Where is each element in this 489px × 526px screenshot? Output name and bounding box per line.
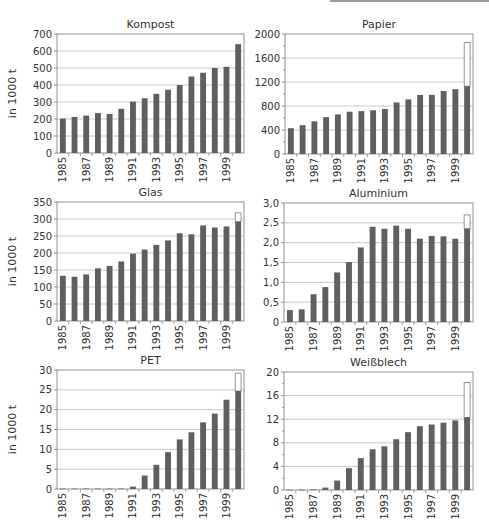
bar-1995 <box>405 229 411 322</box>
x-tick-label: 1993 <box>151 157 162 182</box>
x-tick-label: 1985 <box>284 326 295 351</box>
x-tick-label: 1985 <box>285 158 296 183</box>
x-tick-label: 1991 <box>127 493 138 518</box>
bar-2000 <box>464 417 470 490</box>
bar-1995 <box>405 432 411 490</box>
bar-extension-2000 <box>464 383 470 418</box>
bar-1993 <box>153 245 159 321</box>
bar-1988 <box>323 117 329 154</box>
bar-1998 <box>212 228 218 322</box>
x-tick-label: 1997 <box>198 157 209 182</box>
x-tick-label: 1999 <box>221 157 232 182</box>
y-tick-label: 800 <box>261 101 280 112</box>
bar-2000 <box>235 44 241 153</box>
y-tick-label: 500 <box>33 63 52 74</box>
x-tick-label: 1989 <box>332 158 343 183</box>
bar-1988 <box>322 488 328 490</box>
bar-1987 <box>83 274 89 321</box>
x-tick-label: 1993 <box>379 158 390 183</box>
y-tick-label: 0 <box>46 484 52 495</box>
bar-1986 <box>299 309 305 322</box>
chart-title: Aluminium <box>349 187 408 200</box>
x-tick-label: 1993 <box>151 493 162 518</box>
x-tick-label: 1997 <box>426 326 437 351</box>
x-tick-label: 1987 <box>308 494 319 519</box>
bar-1997 <box>200 422 206 489</box>
bar-1988 <box>95 113 101 153</box>
y-tick-label: 200 <box>33 114 52 125</box>
bar-1992 <box>142 250 148 321</box>
y-tick-label: 0 <box>46 148 52 159</box>
y-tick-label: 20 <box>39 404 52 415</box>
bar-1998 <box>441 423 447 490</box>
bar-1998 <box>441 91 447 154</box>
bar-1997 <box>429 95 435 154</box>
bar-1991 <box>130 487 136 489</box>
bar-1985 <box>60 489 66 490</box>
bar-1989 <box>107 114 113 153</box>
bar-1997 <box>429 236 435 322</box>
bar-1986 <box>72 489 78 490</box>
bar-1989 <box>335 114 341 154</box>
y-tick-label: 25 <box>39 384 52 395</box>
bar-1986 <box>72 117 78 153</box>
y-tick-label: 0 <box>273 317 279 328</box>
y-axis-label: in 1000 t <box>6 68 19 118</box>
x-tick-label: 1991 <box>355 326 366 351</box>
bar-1998 <box>212 68 218 153</box>
x-tick-label: 1989 <box>104 325 115 350</box>
bar-1989 <box>107 489 113 490</box>
bar-1996 <box>188 77 194 154</box>
bar-1992 <box>142 476 148 489</box>
chart-title: PET <box>140 354 161 367</box>
bar-1992 <box>142 98 148 153</box>
y-tick-label: 16 <box>266 390 279 401</box>
bar-1997 <box>200 225 206 321</box>
x-tick-label: 1985 <box>284 494 295 519</box>
chart-pet: PET051015202530in 1000 t1985198719891991… <box>6 354 244 518</box>
y-tick-label: 20 <box>266 367 279 378</box>
bar-2000 <box>235 222 241 321</box>
x-tick-label: 1993 <box>379 494 390 519</box>
bar-1991 <box>130 102 136 153</box>
bar-1999 <box>452 89 458 154</box>
y-tick-label: 15 <box>39 424 52 435</box>
bar-1992 <box>370 227 376 322</box>
bar-1994 <box>165 240 171 321</box>
x-tick-label: 1987 <box>81 325 92 350</box>
y-tick-label: 1,5 <box>263 257 279 268</box>
y-tick-label: 700 <box>33 29 52 40</box>
y-tick-label: 3,0 <box>263 198 279 209</box>
chart-papier: Papier0400800120016002000198519871989199… <box>255 18 473 183</box>
bar-1986 <box>72 277 78 321</box>
y-tick-label: 600 <box>33 46 52 57</box>
bar-1995 <box>177 439 183 489</box>
y-tick-label: 1600 <box>255 53 280 64</box>
bar-1996 <box>188 432 194 489</box>
x-tick-label: 1989 <box>332 326 343 351</box>
bar-1987 <box>311 294 317 322</box>
x-tick-label: 1991 <box>127 325 138 350</box>
y-tick-label: 400 <box>33 80 52 91</box>
x-tick-label: 1995 <box>174 325 185 350</box>
bar-1988 <box>95 268 101 321</box>
bar-extension-2000 <box>464 42 470 86</box>
bar-1988 <box>95 489 101 490</box>
bar-1999 <box>452 420 458 490</box>
x-tick-label: 1999 <box>450 326 461 351</box>
bar-1985 <box>287 490 293 491</box>
y-tick-label: 12 <box>266 414 279 425</box>
x-tick-label: 1997 <box>426 158 437 183</box>
chart-kompost: Kompost0100200300400500600700in 1000 t19… <box>6 18 244 182</box>
y-tick-label: 1,0 <box>263 277 279 288</box>
y-tick-label: 10 <box>39 444 52 455</box>
recycling-charts-grid: Kompost0100200300400500600700in 1000 t19… <box>0 0 489 526</box>
bar-extension-2000 <box>235 373 241 391</box>
bar-1996 <box>417 426 423 490</box>
bar-2000 <box>464 229 470 322</box>
bar-extension-2000 <box>235 213 241 222</box>
bar-1996 <box>417 239 423 322</box>
x-tick-label: 1985 <box>57 157 68 182</box>
bar-1995 <box>177 233 183 321</box>
bar-1986 <box>299 490 305 491</box>
